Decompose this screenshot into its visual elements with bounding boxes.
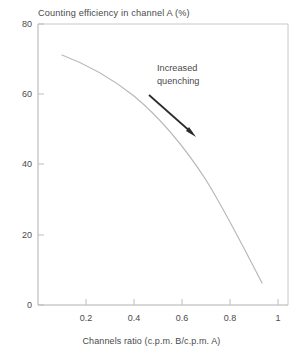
ytick-label-60: 60 [6, 89, 32, 99]
ytick-label-20: 20 [6, 230, 32, 240]
y-tick-marks [38, 24, 44, 305]
annotation-line-2: quenching [157, 75, 199, 88]
x-axis-label: Channels ratio (c.p.m. B/c.p.m. A) [0, 336, 303, 346]
ytick-label-40: 40 [6, 159, 32, 169]
xtick-label-0-8: 0.8 [215, 313, 245, 323]
plot-canvas [0, 0, 303, 357]
xtick-label-0-4: 0.4 [119, 313, 149, 323]
annotation-line-1: Increased [157, 62, 197, 75]
xtick-label-0-6: 0.6 [167, 313, 197, 323]
ytick-label-0: 0 [6, 300, 32, 310]
x-tick-marks [86, 299, 278, 305]
ytick-label-80: 80 [6, 19, 32, 29]
xtick-label-1: 1 [263, 313, 293, 323]
chart-figure: Counting efficiency in channel A (%) [0, 0, 303, 357]
xtick-label-0-2: 0.2 [71, 313, 101, 323]
data-curve [62, 55, 262, 283]
